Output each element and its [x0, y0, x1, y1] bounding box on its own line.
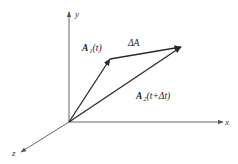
z-axis [21, 122, 69, 152]
vector-a2 [69, 47, 181, 122]
x-axis-label: x [224, 117, 229, 127]
label-a2-name: A [135, 91, 142, 101]
label-a2-arg: (t+Δt) [147, 91, 171, 102]
label-a2: A2(t+Δt) [135, 91, 170, 102]
z-axis-label: z [11, 148, 16, 158]
label-a1-arg: (t) [93, 43, 102, 54]
vector-a1 [69, 59, 110, 122]
label-delta-a: ΔA [127, 38, 140, 48]
label-a1: A1(t) [81, 43, 102, 54]
vector-diagram: y x z A1(t) ΔA A2(t+Δt) [0, 0, 238, 164]
y-axis-label: y [74, 9, 79, 19]
vector-delta-a [110, 47, 181, 59]
label-a1-name: A [81, 43, 88, 53]
